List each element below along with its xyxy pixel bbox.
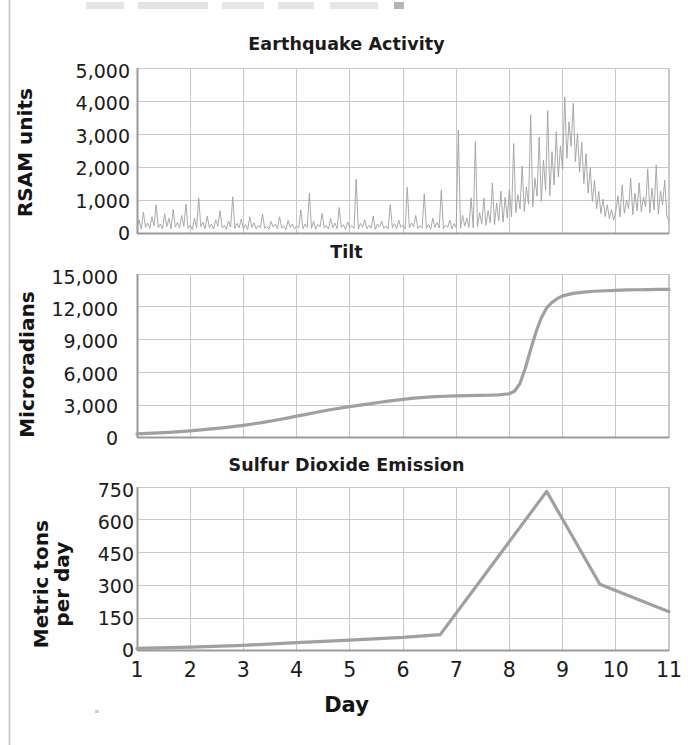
x-tick-5: 5 [330,658,370,682]
panel-sulfur-dioxide-emission: Sulfur Dioxide Emission Metric tons per … [0,448,693,698]
y-tick-1000: 1,000 [30,190,130,212]
y-tick-600: 600 [34,511,134,533]
chart-title-sulfur-dioxide-emission: Sulfur Dioxide Emission [0,455,693,475]
x-tick-1: 1 [117,658,157,682]
x-tick-9: 9 [543,658,583,682]
y-tick-3000: 3,000 [30,125,130,147]
x-tick-2: 2 [170,658,210,682]
figure-page: Earthquake Activity RSAM units 5,000 4,0… [0,0,693,745]
y-tick-150: 150 [34,607,134,629]
x-tick-6: 6 [383,658,423,682]
y-tick-5000: 5,000 [30,60,130,82]
x-axis-title: Day [0,693,693,717]
x-tick-10: 10 [596,658,636,682]
y-tick-750: 750 [34,479,134,501]
x-tick-7: 7 [436,658,476,682]
chart-title-tilt: Tilt [0,242,693,262]
panel-earthquake-activity: Earthquake Activity RSAM units 5,000 4,0… [0,0,693,245]
x-tick-3: 3 [223,658,263,682]
x-tick-11: 11 [649,658,689,682]
y-tick-3000: 3,000 [18,395,118,417]
y-tick-15000: 15,000 [18,266,118,288]
y-tick-450: 450 [34,543,134,565]
x-tick-4: 4 [277,658,317,682]
y-tick-300: 300 [34,575,134,597]
y-tick-6000: 6,000 [18,363,118,385]
y-tick-12000: 12,000 [18,298,118,320]
y-tick-2000: 2,000 [30,157,130,179]
panel-tilt: Tilt Microradians 15,000 12,000 9,000 6,… [0,236,693,456]
y-tick-0: 0 [18,427,118,449]
x-tick-8: 8 [489,658,529,682]
y-tick-9000: 9,000 [18,330,118,352]
plot-tilt [137,274,669,438]
chart-title-earthquake-activity: Earthquake Activity [0,34,693,54]
plot-earthquake-activity [137,68,669,234]
y-tick-4000: 4,000 [30,92,130,114]
plot-sulfur-dioxide-emission [137,487,669,651]
